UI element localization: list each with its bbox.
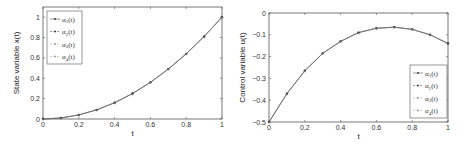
y-tick-label: −0.3 — [252, 75, 266, 82]
legend-label: α2(t) — [425, 82, 438, 91]
legend-label: α3(t) — [62, 41, 75, 50]
x-tick-label: 0.4 — [336, 124, 346, 131]
y-tick-label: 0 — [262, 10, 266, 17]
y-axis-label: Control variable u(t) — [238, 32, 247, 103]
y-tick-label: −0.2 — [252, 53, 266, 60]
x-tick-label: 0.2 — [74, 121, 84, 128]
legend-label: α4(t) — [62, 53, 75, 62]
y-tick-label: −0.4 — [252, 97, 266, 104]
legend-label: α1(t) — [62, 16, 75, 25]
legend-label: α1(t) — [425, 70, 438, 79]
x-tick-label: 1 — [220, 121, 224, 128]
y-tick-label: 0.4 — [30, 75, 40, 82]
x-tick-label: 0.8 — [407, 124, 417, 131]
x-axis-label: t — [131, 129, 134, 138]
x-tick-label: 0 — [267, 124, 271, 131]
y-axis-label: State variable x(t) — [12, 31, 21, 94]
x-tick-label: 1 — [446, 124, 450, 131]
y-tick-label: 0 — [36, 116, 40, 123]
y-tick-label: 1 — [36, 14, 40, 21]
x-axis-label: t — [357, 132, 360, 141]
x-tick-label: 0.2 — [300, 124, 310, 131]
y-tick-label: 0.6 — [30, 54, 40, 61]
x-tick-label: 0 — [41, 121, 45, 128]
legend-label: α3(t) — [425, 95, 438, 104]
x-tick-label: 0.8 — [181, 121, 191, 128]
chart-figure: 00.20.40.60.8100.20.40.60.81tState varia… — [0, 0, 464, 144]
chart-panel-2: 00.20.40.60.810−0.1−0.2−0.3−0.4−0.5tCont… — [238, 10, 450, 142]
legend-label: α4(t) — [425, 107, 438, 116]
legend: α1(t)α2(t)α3(t)α4(t) — [47, 11, 82, 64]
x-tick-label: 0.6 — [372, 124, 382, 131]
y-tick-label: −0.1 — [252, 31, 266, 38]
y-tick-label: 0.2 — [30, 95, 40, 102]
legend: α1(t)α2(t)α3(t)α4(t) — [410, 65, 447, 118]
y-tick-label: 0.8 — [30, 34, 40, 41]
chart-panel-1: 00.20.40.60.8100.20.40.60.81tState varia… — [12, 7, 224, 138]
x-tick-label: 0.6 — [146, 121, 156, 128]
y-tick-label: −0.5 — [252, 119, 266, 126]
legend-label: α2(t) — [62, 28, 75, 37]
x-tick-label: 0.4 — [110, 121, 120, 128]
